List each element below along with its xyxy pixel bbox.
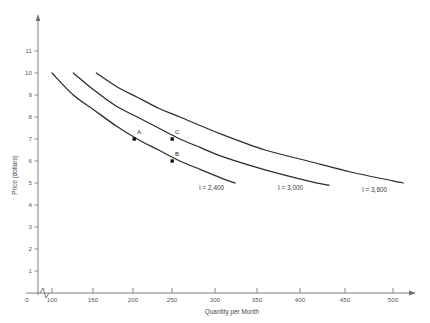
curve-label-0: I = 2,400 — [199, 184, 224, 191]
y-tick-label-1: 1 — [29, 267, 33, 274]
point-marker-a — [133, 137, 136, 140]
y-tick-label-3: 3 — [29, 223, 33, 230]
x-tick-label-350: 350 — [252, 296, 263, 303]
point-label-c: C — [175, 128, 180, 135]
x-tick-label-400: 400 — [295, 296, 306, 303]
x-tick-label-200: 200 — [128, 296, 139, 303]
chart-svg: 11 10 9 8 7 6 5 4 3 2 1 Price (dollars) — [0, 0, 430, 323]
x-tick-label-0: 0 — [25, 296, 29, 303]
y-tick-label-2: 2 — [29, 245, 33, 252]
y-axis: 11 10 9 8 7 6 5 4 3 2 1 Price (dollars) — [11, 14, 40, 295]
demand-curves — [52, 73, 403, 185]
x-axis-ticks — [52, 288, 393, 293]
y-tick-label-10: 10 — [25, 69, 32, 76]
point-marker-b — [171, 159, 174, 162]
demand-curves-chart: 11 10 9 8 7 6 5 4 3 2 1 Price (dollars) — [0, 0, 430, 323]
y-tick-label-6: 6 — [29, 157, 33, 164]
y-axis-arrowhead — [36, 14, 41, 21]
y-tick-label-11: 11 — [26, 47, 33, 54]
y-axis-tick-labels: 11 10 9 8 7 6 5 4 3 2 1 — [25, 47, 32, 274]
curve-labels: I = 2,400 I = 3,000 I = 3,600 — [199, 184, 387, 193]
y-tick-label-9: 9 — [29, 91, 33, 98]
x-tick-label-500: 500 — [388, 296, 399, 303]
curve-label-1: I = 3,000 — [278, 184, 303, 191]
point-label-a: A — [137, 128, 142, 135]
x-tick-label-100: 100 — [47, 296, 58, 303]
x-axis-arrowhead — [409, 291, 416, 296]
x-tick-label-250: 250 — [167, 296, 178, 303]
y-axis-ticks — [35, 51, 39, 271]
demand-curve-0 — [52, 73, 235, 183]
point-marker-c — [171, 137, 174, 140]
demand-curve-1 — [73, 73, 329, 185]
x-tick-label-300: 300 — [210, 296, 221, 303]
y-axis-title: Price (dollars) — [11, 155, 19, 194]
point-label-b: B — [175, 150, 179, 157]
curve-label-2: I = 3,600 — [362, 186, 387, 193]
y-tick-label-5: 5 — [29, 179, 33, 186]
x-axis: 0 100 150 200 250 300 350 400 450 500 Qu… — [25, 288, 416, 316]
demand-curve-2 — [96, 73, 403, 183]
x-tick-label-450: 450 — [340, 296, 351, 303]
x-axis-tick-labels: 0 100 150 200 250 300 350 400 450 500 — [25, 296, 398, 303]
y-tick-label-7: 7 — [29, 135, 33, 142]
x-axis-title: Quantity per Month — [205, 308, 260, 316]
y-tick-label-8: 8 — [29, 113, 33, 120]
x-tick-label-150: 150 — [88, 296, 99, 303]
y-tick-label-4: 4 — [29, 201, 33, 208]
